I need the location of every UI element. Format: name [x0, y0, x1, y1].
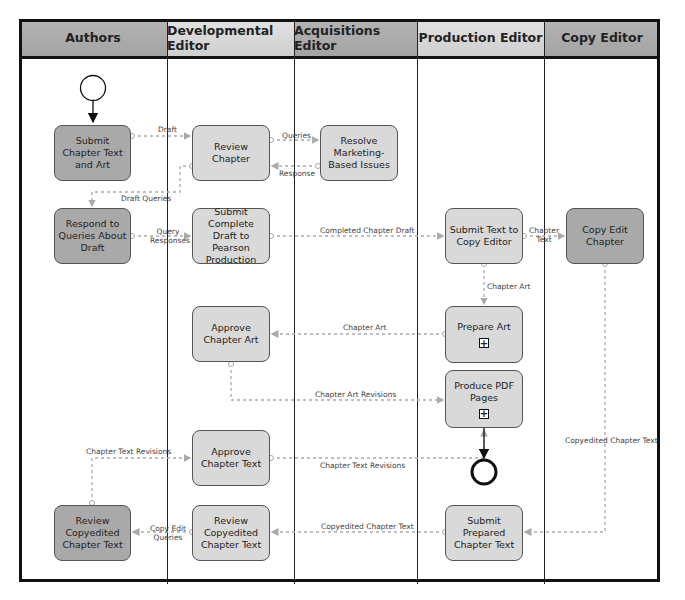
flow-label-copy-edit-queries: Copy Edit Queries: [148, 524, 188, 542]
task-label: Submit Prepared Chapter Text: [449, 515, 519, 551]
task-label: Review Chapter: [196, 141, 266, 165]
task-label: Submit Chapter Text and Art: [58, 135, 127, 171]
label-line: Responses: [150, 236, 186, 245]
task-label: Resolve Marketing-Based Issues: [324, 135, 394, 171]
task-label: Review Copyedited Chapter Text: [58, 515, 127, 551]
subprocess-expand-icon[interactable]: +: [479, 409, 489, 419]
flow-label-chapter-art-revisions: Chapter Art Revisions: [315, 390, 396, 399]
task-label: Approve Chapter Text: [196, 446, 266, 470]
flow-label-text-revisions-right: Chapter Text Revisions: [320, 461, 405, 470]
task-copy-edit-chapter[interactable]: Copy Edit Chapter: [566, 208, 644, 264]
task-label: Copy Edit Chapter: [570, 224, 640, 248]
flow-label-copyedited-left: Copyedited Chapter Text: [321, 522, 414, 531]
task-submit-complete-draft[interactable]: Submit Complete Draft to Pearson Product…: [192, 208, 270, 264]
task-respond-queries[interactable]: Respond to Queries About Draft: [54, 208, 131, 264]
task-label: Submit Complete Draft to Pearson Product…: [196, 206, 266, 266]
task-label: Respond to Queries About Draft: [58, 218, 127, 254]
flow-label-draft: Draft: [158, 125, 177, 134]
task-label: Approve Chapter Art: [196, 322, 266, 346]
flow-label-chapter-art-down: Chapter Art: [487, 282, 531, 291]
task-submit-text-copy-editor[interactable]: Submit Text to Copy Editor: [445, 208, 523, 264]
task-resolve-marketing[interactable]: Resolve Marketing-Based Issues: [320, 125, 398, 181]
task-prepare-art[interactable]: Prepare Art +: [445, 306, 523, 363]
swimlane-diagram: Authors Developmental Editor Acquisition…: [0, 0, 685, 600]
label-line: Copy Edit: [148, 524, 188, 533]
label-line: Queries: [148, 533, 188, 542]
flow-label-copyedited-vertical: Copyedited Chapter Text: [565, 436, 658, 445]
task-label: Prepare Art: [457, 321, 511, 333]
label-line: Query: [150, 227, 186, 236]
task-approve-chapter-art[interactable]: Approve Chapter Art: [192, 306, 270, 362]
flow-label-completed-draft: Completed Chapter Draft: [320, 226, 415, 235]
task-label: Review Copyedited Chapter Text: [196, 515, 266, 551]
flow-label-chapter-art-left: Chapter Art: [343, 323, 387, 332]
label-line: Chapter: [526, 226, 562, 235]
task-review-copyedited-author[interactable]: Review Copyedited Chapter Text: [54, 505, 131, 561]
diagram-frame: [19, 19, 660, 582]
flow-label-response: Response: [279, 169, 315, 178]
flow-label-text-revisions-left: Chapter Text Revisions: [86, 447, 171, 456]
label-line: Text: [526, 235, 562, 244]
task-label: Submit Text to Copy Editor: [449, 224, 519, 248]
task-review-chapter[interactable]: Review Chapter: [192, 125, 270, 181]
task-submit-prepared-text[interactable]: Submit Prepared Chapter Text: [445, 505, 523, 561]
task-review-copyedited-dev[interactable]: Review Copyedited Chapter Text: [192, 505, 270, 561]
task-label: Produce PDF Pages: [449, 380, 519, 404]
flow-label-query-responses: Query Responses: [150, 227, 186, 245]
flow-label-draft-queries: Draft Queries: [121, 194, 171, 203]
task-submit-chapter[interactable]: Submit Chapter Text and Art: [54, 125, 131, 181]
subprocess-expand-icon[interactable]: +: [479, 338, 489, 348]
task-approve-chapter-text[interactable]: Approve Chapter Text: [192, 430, 270, 486]
flow-label-queries: Queries: [282, 131, 311, 140]
task-produce-pdf-pages[interactable]: Produce PDF Pages +: [445, 370, 523, 428]
flow-label-chapter-text: Chapter Text: [526, 226, 562, 244]
